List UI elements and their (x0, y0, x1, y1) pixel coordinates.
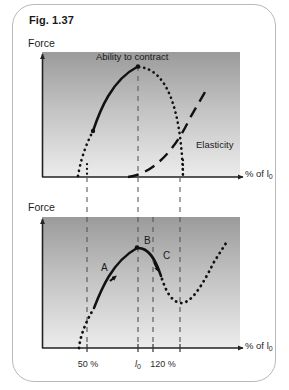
top-chart-contract-peak-dot (136, 64, 140, 68)
annotation-ability-to-contract: Ability to contract (96, 51, 169, 62)
figure-svg: Ability to contract Elasticity (0, 0, 289, 390)
top-chart-plot-area (42, 52, 240, 177)
annotation-elasticity: Elasticity (196, 139, 234, 150)
figure-page: Fig. 1.37 Force Force % of l0 % of l0 50… (0, 0, 289, 390)
bottom-chart-point-b-dot (135, 245, 140, 250)
annotation-point-b: B (144, 235, 151, 246)
bottom-chart: A B C (42, 217, 243, 352)
top-chart-contract-start-dot (91, 129, 95, 133)
annotation-point-a: A (101, 262, 108, 273)
annotation-point-c: C (163, 250, 170, 261)
bottom-chart-plot-area (42, 217, 240, 348)
top-chart: Ability to contract Elasticity (42, 51, 243, 177)
